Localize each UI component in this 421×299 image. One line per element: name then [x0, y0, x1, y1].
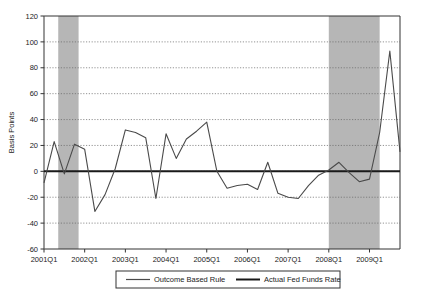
xtick-label-7: 2008Q1	[315, 255, 342, 264]
ytick-label-80: 80	[30, 63, 38, 72]
ytick-label-40: 40	[30, 115, 38, 124]
xtick-label-8: 2009Q1	[356, 255, 383, 264]
recession-band-2001	[58, 16, 78, 249]
xtick-label-3: 2004Q1	[153, 255, 180, 264]
ytick-label--40: -40	[27, 219, 38, 228]
xtick-label-2: 2003Q1	[112, 255, 139, 264]
legend-label-actual-fed-funds-rate: Actual Fed Funds Rate	[264, 275, 341, 284]
y-axis-title: Basis Points	[7, 112, 16, 154]
ytick-label-60: 60	[30, 89, 38, 98]
xtick-label-1: 2002Q1	[71, 255, 98, 264]
recession-band-2008	[329, 16, 380, 249]
ytick-label-20: 20	[30, 141, 38, 150]
legend-label-outcome-based-rule: Outcome Based Rule	[154, 275, 225, 284]
xtick-label-0: 2001Q1	[31, 255, 58, 264]
xtick-label-4: 2005Q1	[193, 255, 220, 264]
ytick-label-120: 120	[25, 12, 38, 21]
ytick-label--20: -20	[27, 193, 38, 202]
ytick-label--60: -60	[27, 245, 38, 254]
ytick-label-0: 0	[34, 167, 38, 176]
chart-canvas: -60-40-200204060801001202001Q12002Q12003…	[0, 0, 421, 299]
ytick-label-100: 100	[25, 38, 38, 47]
line-chart: -60-40-200204060801001202001Q12002Q12003…	[0, 0, 421, 299]
xtick-label-6: 2007Q1	[275, 255, 302, 264]
chart-root: -60-40-200204060801001202001Q12002Q12003…	[0, 0, 421, 299]
xtick-label-5: 2006Q1	[234, 255, 261, 264]
